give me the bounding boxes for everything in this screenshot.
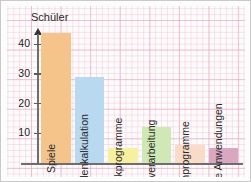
y-tick-label-40: 40 bbox=[18, 38, 30, 48]
bar-3[interactable] bbox=[108, 148, 138, 163]
y-tick-label-10: 10 bbox=[18, 127, 30, 137]
bar-5[interactable] bbox=[175, 145, 205, 163]
y-axis-label: Schüler bbox=[31, 11, 68, 23]
bar-4[interactable] bbox=[142, 127, 172, 163]
y-tick-20 bbox=[34, 103, 41, 104]
bar-6[interactable] bbox=[209, 148, 239, 163]
y-tick-label-30: 30 bbox=[18, 68, 30, 78]
x-axis-line bbox=[21, 163, 243, 165]
bar-label-3: Grafikprogramme bbox=[112, 117, 123, 177]
y-tick-40 bbox=[34, 44, 41, 45]
bar-1[interactable] bbox=[41, 33, 71, 163]
bar-label-6: Sonstige Anwendungen bbox=[213, 103, 224, 177]
y-tick-30 bbox=[34, 73, 41, 74]
bar-2[interactable] bbox=[75, 77, 105, 163]
y-tick-10 bbox=[34, 133, 41, 134]
graph-paper-background: Schüler 10203040 SpieleTabellenkalkulati… bbox=[7, 6, 245, 177]
plot-area: Schüler 10203040 SpieleTabellenkalkulati… bbox=[7, 6, 245, 177]
chart-frame: Schüler 10203040 SpieleTabellenkalkulati… bbox=[0, 0, 251, 182]
y-axis-line bbox=[37, 34, 39, 164]
y-tick-label-20: 20 bbox=[18, 98, 30, 108]
